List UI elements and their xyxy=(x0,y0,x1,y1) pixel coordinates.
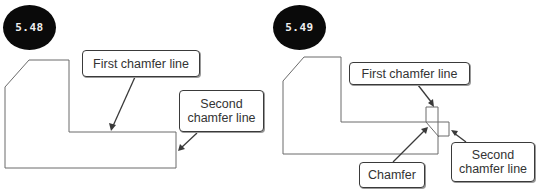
second-chamfer-line-text-2: chamfer line xyxy=(187,111,255,125)
chamfer-text: Chamfer xyxy=(368,168,416,182)
figure-number-badge: 5.48 xyxy=(3,5,56,50)
second-chamfer-line-text-1: Second xyxy=(472,148,514,162)
first-chamfer-line-text: First chamfer line xyxy=(93,57,189,71)
figure-number-badge: 5.49 xyxy=(273,5,326,50)
first-chamfer-line-label: First chamfer line xyxy=(349,62,470,85)
figure-5-49: 5.49 First chamfer line Chamfer Second c… xyxy=(267,0,537,190)
chamfer-label: Chamfer xyxy=(359,162,425,188)
second-chamfer-line-label: Second chamfer line xyxy=(451,142,535,182)
first-chamfer-line-arrowhead xyxy=(428,99,434,107)
second-chamfer-line-label: Second chamfer line xyxy=(179,90,264,132)
first-chamfer-line-leader xyxy=(418,85,432,103)
first-chamfer-line-arrowhead xyxy=(109,123,116,131)
second-chamfer-line-text-1: Second xyxy=(200,97,242,111)
second-chamfer-line-leader xyxy=(181,133,197,148)
chamfer-edge xyxy=(426,122,439,137)
figure-5-48: 5.48 First chamfer line Second chamfer l… xyxy=(0,0,268,190)
first-chamfer-line-leader xyxy=(113,77,135,126)
second-chamfer-line-text-2: chamfer line xyxy=(459,162,527,176)
first-chamfer-line-text: First chamfer line xyxy=(362,67,458,81)
chamfer-leader xyxy=(393,130,425,162)
first-chamfer-line-label: First chamfer line xyxy=(82,50,200,77)
